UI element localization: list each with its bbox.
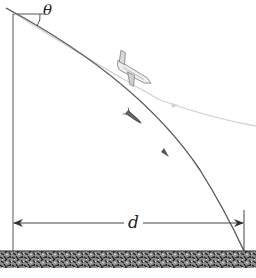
angle-arc bbox=[37, 14, 40, 26]
angle-label: θ bbox=[43, 3, 52, 18]
distance-label: d bbox=[124, 214, 143, 231]
trajectory-arrow-icon bbox=[161, 148, 169, 157]
diagram-canvas bbox=[0, 0, 256, 278]
airplane-icon bbox=[109, 50, 158, 93]
airplane-path bbox=[6, 8, 256, 126]
ground bbox=[0, 251, 256, 268]
airplane-path-arrow-icon bbox=[171, 103, 179, 108]
package-icon bbox=[122, 106, 145, 127]
